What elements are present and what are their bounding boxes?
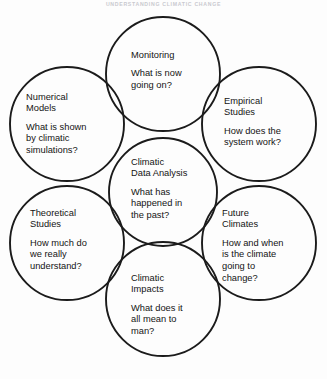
node-future-climates: Future Climates How and when is the clim… <box>222 208 306 284</box>
node-numerical-models-question: What is shown by climatic simulations? <box>26 122 112 157</box>
node-climatic-data-analysis-title: Climatic Data Analysis <box>131 157 215 180</box>
node-climatic-impacts-question: What does it all mean to man? <box>131 303 211 338</box>
node-climatic-impacts: Climatic Impacts What does it all mean t… <box>131 273 211 338</box>
node-numerical-models: Numerical Models What is shown by climat… <box>26 92 112 157</box>
node-empirical-studies: Empirical Studies How does the system wo… <box>224 96 310 149</box>
node-climatic-data-analysis-question: What has happened in the past? <box>131 187 215 222</box>
node-theoretical-studies-question: How much do we really understand? <box>30 238 116 273</box>
node-climatic-data-analysis: Climatic Data Analysis What has happened… <box>131 157 215 222</box>
node-monitoring-title: Monitoring <box>131 50 211 61</box>
node-climatic-impacts-title: Climatic Impacts <box>131 273 211 296</box>
node-numerical-models-title: Numerical Models <box>26 92 112 115</box>
node-future-climates-question: How and when is the climate going to cha… <box>222 238 306 284</box>
node-future-climates-title: Future Climates <box>222 208 306 231</box>
node-theoretical-studies: Theoretical Studies How much do we reall… <box>30 208 116 273</box>
node-monitoring-question: What is now going on? <box>131 68 211 91</box>
venn-diagram-figure: UNDERSTANDING CLIMATIC CHANGE Monitoring… <box>0 0 327 379</box>
node-monitoring: Monitoring What is now going on? <box>131 50 211 92</box>
node-empirical-studies-question: How does the system work? <box>224 126 310 149</box>
node-theoretical-studies-title: Theoretical Studies <box>30 208 116 231</box>
node-empirical-studies-title: Empirical Studies <box>224 96 310 119</box>
